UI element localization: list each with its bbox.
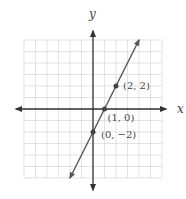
point-marker [102, 107, 107, 112]
y-axis-label: y [88, 7, 96, 21]
x-axis-label: x [177, 102, 184, 116]
point-label: (0, −2) [101, 129, 136, 140]
plotted-points: (2, 2)(1, 0)(0, −2) [91, 80, 150, 140]
point-label: (1, 0) [108, 112, 135, 123]
point-marker [91, 130, 96, 135]
point-marker [114, 84, 119, 89]
point-label: (2, 2) [123, 80, 150, 91]
coordinate-plane: (2, 2)(1, 0)(0, −2) x y [0, 0, 186, 199]
